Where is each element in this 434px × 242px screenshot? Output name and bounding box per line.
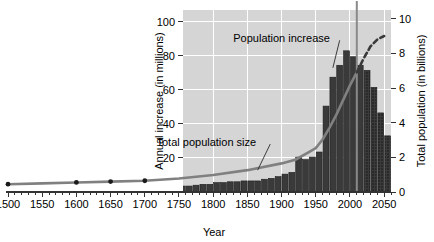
population-growth-chart: 1500155016001650170017501800185019001950…: [0, 0, 434, 242]
y2-tick-label: 8: [399, 47, 405, 59]
bar: [234, 182, 240, 192]
bar: [357, 65, 363, 192]
bar: [303, 160, 309, 192]
annotation-label-2: Total population size: [156, 136, 256, 148]
bar: [296, 157, 302, 192]
x-tick-label: 1600: [64, 198, 88, 210]
bar: [227, 182, 233, 192]
x-tick-label: 2000: [338, 198, 362, 210]
x-tick-label: 1500: [0, 198, 20, 210]
line-marker: [74, 180, 79, 185]
x-axis-title: Year: [203, 226, 226, 238]
y2-tick-label: 2: [399, 151, 405, 163]
bar: [268, 178, 274, 192]
bar-projected: [385, 136, 391, 192]
bar: [255, 181, 261, 192]
x-tick-label: 1800: [201, 198, 225, 210]
x-tick-label: 1950: [304, 198, 328, 210]
bar: [193, 185, 199, 192]
bar: [316, 152, 322, 192]
bar: [207, 184, 213, 192]
bar: [200, 184, 206, 192]
line-marker: [108, 179, 113, 184]
bar: [289, 172, 295, 192]
bar: [309, 157, 315, 192]
bar-projected: [378, 113, 384, 192]
y-axis-right-title: Total population (in billions): [415, 35, 427, 168]
bar: [214, 183, 220, 192]
bar: [262, 179, 268, 192]
bar: [330, 77, 336, 192]
bar: [241, 181, 247, 192]
bar: [221, 183, 227, 192]
line-marker: [6, 182, 11, 187]
bar: [344, 51, 350, 192]
bar-projected: [364, 70, 370, 192]
x-tick-label: 1650: [98, 198, 122, 210]
bar: [323, 106, 329, 192]
x-tick-label: 1900: [269, 198, 293, 210]
bar: [337, 65, 343, 192]
x-tick-label: 1750: [167, 198, 191, 210]
bar: [186, 186, 192, 192]
y-tick-label: 100: [157, 16, 175, 28]
bar: [275, 177, 281, 192]
line-marker: [142, 178, 147, 183]
bar: [282, 174, 288, 192]
y-axis-left-title: Annual increase (in millions): [153, 32, 165, 170]
bar: [248, 181, 254, 192]
y2-tick-label: 10: [399, 13, 411, 25]
x-tick-label: 1850: [235, 198, 259, 210]
y2-tick-label: 4: [399, 117, 405, 129]
x-tick-label: 1550: [30, 198, 54, 210]
y2-tick-label: 6: [399, 82, 405, 94]
bar-projected: [371, 87, 377, 192]
x-tick-label: 2050: [372, 198, 396, 210]
y2-tick-label: 0: [399, 186, 405, 198]
x-tick-label: 1700: [133, 198, 157, 210]
annotation-label-1: Population increase: [233, 32, 330, 44]
